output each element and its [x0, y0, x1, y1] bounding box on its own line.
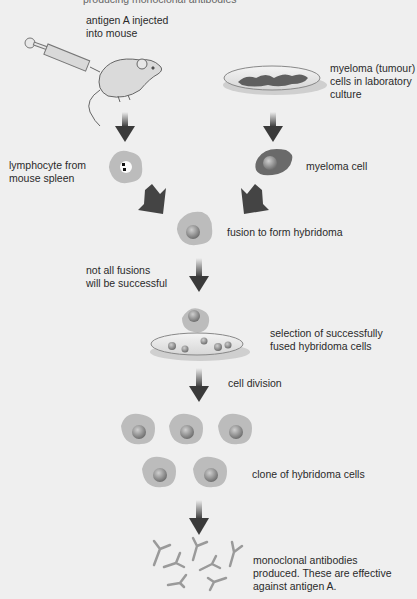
antibodies-icon — [154, 538, 242, 590]
syringe-icon — [25, 38, 100, 72]
arrow-down-icon — [189, 500, 209, 535]
lymphocyte-label: lymphocyte from mouse spleen — [9, 159, 86, 185]
antigen-injected-label: antigen A injected into mouse — [86, 14, 168, 40]
arrow-down-icon — [263, 112, 283, 142]
selection-dish-icon — [150, 308, 250, 361]
arrow-down-icon — [189, 258, 209, 292]
myeloma-cell-icon — [255, 149, 292, 175]
page-title: producing monoclonal antibodies — [83, 0, 237, 6]
not-all-fusions-label: not all fusions will be successful — [86, 264, 167, 290]
clone-cells-icon — [121, 414, 252, 487]
arrow-diagonal-icon — [138, 184, 166, 214]
fusion-label: fusion to form hybridoma — [227, 226, 343, 239]
cell-division-label: cell division — [228, 377, 282, 390]
arrow-down-icon — [115, 112, 135, 142]
clone-label: clone of hybridoma cells — [252, 468, 365, 481]
arrow-down-icon — [189, 368, 209, 402]
petri-dish-myeloma-icon — [223, 66, 327, 95]
selection-label: selection of successfully fused hybridom… — [270, 327, 383, 353]
arrow-diagonal-icon — [241, 184, 269, 214]
myeloma-culture-label: myeloma (tumour) cells in laboratory cul… — [330, 62, 415, 101]
myeloma-cell-label: myeloma cell — [306, 160, 367, 173]
antibodies-label: monoclonal antibodies produced. These ar… — [253, 554, 392, 593]
hybridoma-cell-icon — [177, 212, 212, 245]
lymphocyte-cell-icon — [109, 151, 142, 183]
